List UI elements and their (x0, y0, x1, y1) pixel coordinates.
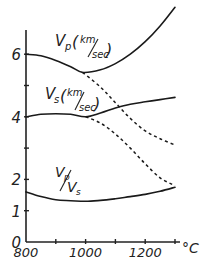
series-line-vs-extrapolated (86, 117, 175, 186)
label-vp: V p ( km sec ) (55, 32, 112, 60)
tick-labels: 0124680010001200 (11, 46, 161, 260)
series (26, 7, 175, 201)
label-vs-paren-close: ) (93, 94, 100, 113)
x-unit-label: °C (182, 240, 199, 256)
ticks (24, 54, 175, 244)
y-tick-label: 1 (11, 203, 21, 221)
label-vpvs: V p V s (55, 164, 81, 197)
label-vs: V s ( km sec ) (45, 85, 100, 113)
label-vs-paren-open: ( (60, 86, 67, 105)
y-tick-label: 6 (11, 46, 21, 64)
y-tick-label: 2 (11, 171, 21, 189)
label-vp-km: km (80, 34, 96, 45)
label-vp-sub: p (64, 41, 71, 52)
label-vs-sub: s (54, 94, 59, 105)
series-line-vp-vs (26, 187, 175, 201)
x-tick-label: 1000 (69, 245, 102, 260)
x-tick-label: 800 (14, 245, 39, 260)
label-vp-paren-close: ) (105, 40, 112, 59)
chart: 0124680010001200 V p ( km sec ) V s ( km… (0, 0, 206, 270)
label-vpvs-s: s (76, 187, 81, 197)
axes (26, 30, 180, 242)
label-vp-paren-open: ( (72, 32, 79, 51)
label-vs-km: km (67, 87, 83, 98)
series-line-vp-km-sec (26, 7, 175, 72)
y-tick-label: 4 (11, 109, 21, 127)
x-tick-label: 1200 (129, 245, 162, 260)
